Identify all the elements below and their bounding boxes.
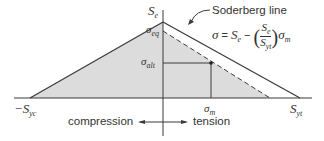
soderberg-line-title: Soderberg line	[212, 5, 287, 17]
label-sigma-alt: σalt	[141, 56, 155, 70]
callout-arrowhead-icon	[188, 19, 194, 25]
label-neg-syc: −Syc	[14, 102, 36, 118]
soderberg-equation: σ = Se − (SeSyt)σm	[212, 22, 290, 51]
arrow-right-icon	[181, 120, 188, 124]
label-tension: tension	[193, 116, 230, 128]
label-compression: compression	[68, 116, 133, 128]
label-sigma-eq: σeq	[146, 24, 159, 38]
callout-leader	[191, 10, 210, 22]
operating-point	[209, 61, 213, 65]
label-se: Se	[148, 4, 158, 20]
arrow-left-icon	[138, 120, 145, 124]
label-syt: Syt	[290, 102, 302, 118]
